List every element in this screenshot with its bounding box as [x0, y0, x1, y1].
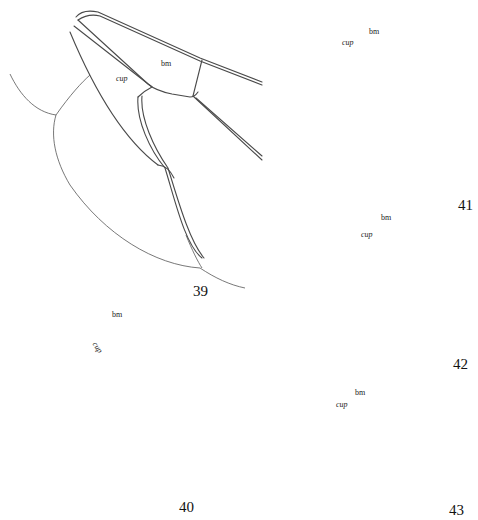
panel-41-number: 41 [458, 197, 473, 214]
panel-43-cup-label: cup [336, 400, 348, 409]
panel-39-drawing [10, 11, 262, 288]
wing-figure-canvas [0, 0, 478, 520]
panel-40-number: 40 [179, 499, 194, 516]
panel-42-bm-label: bm [381, 213, 391, 222]
panel-39-cup-label: cup [116, 74, 128, 83]
panel-40-bm-label: bm [112, 310, 122, 319]
panel-39-number: 39 [193, 283, 208, 300]
panel-41-bm-label: bm [369, 27, 379, 36]
panel-42-number: 42 [453, 356, 468, 373]
panel-43-bm-label: bm [355, 388, 365, 397]
panel-43-number: 43 [449, 502, 464, 519]
panel-42-cup-label: cup [361, 230, 373, 239]
panel-39-bm-label: bm [161, 59, 171, 68]
panel-41-cup-label: cup [342, 38, 354, 47]
